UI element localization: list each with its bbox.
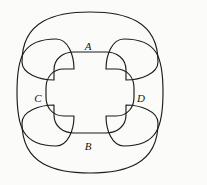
region-label-a: A [85,41,92,52]
diagram-canvas [0,0,207,185]
four-region-diagram: A B C D [0,0,207,185]
region-label-c: C [34,93,41,104]
region-d-curve [106,39,163,146]
region-label-d: D [137,93,145,104]
region-label-b: B [85,141,92,152]
region-c-curve [17,39,74,146]
